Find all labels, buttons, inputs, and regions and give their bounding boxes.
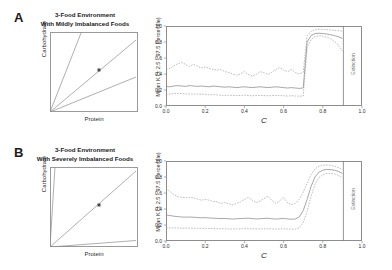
panel-a-lineplot-xlabel: C [166, 116, 362, 125]
xtick-0.6: 0.6 [274, 243, 294, 249]
ytick-0.4: 0.4 [146, 71, 162, 77]
xtick-1.0: 1.0 [352, 243, 372, 249]
rail-high-carbohydrate [50, 32, 81, 112]
xtick-0.4: 0.4 [234, 243, 254, 249]
ytick-0.2: 0.2 [146, 87, 162, 93]
xtick-0.8: 0.8 [313, 243, 333, 249]
intake-target-marker [98, 69, 101, 72]
rail-balanced [50, 40, 136, 112]
rail-balanced [50, 171, 136, 247]
panel-a-nutrient-xlabel: Protein [50, 116, 138, 122]
intake-target-marker [98, 204, 101, 207]
panel-b-nutrient-plot: Carbohydrate Protein [20, 163, 146, 267]
rail-high-protein [50, 77, 136, 112]
panel-b-letter: B [14, 146, 23, 159]
panel-b-nutrient-xlabel: Protein [50, 251, 138, 257]
panel-b-lineplot-xlabel: C [166, 251, 362, 260]
rail-high-protein [50, 241, 136, 248]
series-97-5-percentile [166, 29, 342, 76]
panel-a-nutrient-rails [50, 32, 138, 112]
ytick-1.0: 1.0 [146, 158, 162, 164]
ytick-0.6: 0.6 [146, 190, 162, 196]
xtick-0.2: 0.2 [195, 108, 215, 114]
ytick-0.4: 0.4 [146, 206, 162, 212]
ytick-0.8: 0.8 [146, 174, 162, 180]
series-mean-k [166, 33, 342, 88]
series-97-5-percentile [166, 165, 342, 205]
xtick-0.0: 0.0 [156, 243, 176, 249]
panel-a: A 3-Food Environment With Mildly Imbalan… [0, 0, 392, 135]
panel-a-line-plot: Mean K (± 2.5 - 97.5 Percentile) 0.00.20… [146, 20, 390, 132]
rail-high-carbohydrate [50, 167, 55, 247]
panel-b-extinction-label: Extinction [350, 174, 356, 224]
xtick-0.6: 0.6 [274, 108, 294, 114]
panel-b: B 3-Food Environment With Severely Imbal… [0, 135, 392, 270]
xtick-0.2: 0.2 [195, 243, 215, 249]
panel-a-letter: A [14, 11, 23, 24]
xtick-0.0: 0.0 [156, 108, 176, 114]
panel-b-line-plot: Mean K (± 2.5 - 97.5 Percentile) 0.00.20… [146, 155, 390, 267]
xtick-1.0: 1.0 [352, 108, 372, 114]
series-mean-k [166, 169, 342, 219]
panel-a-nutrient-plot: Carbohydrate Protein [20, 28, 146, 132]
xtick-0.8: 0.8 [313, 108, 333, 114]
ytick-0.6: 0.6 [146, 55, 162, 61]
ytick-1.0: 1.0 [146, 23, 162, 29]
panel-b-lineplot-curves [166, 161, 362, 241]
ytick-0.8: 0.8 [146, 39, 162, 45]
panel-a-lineplot-curves [166, 26, 362, 106]
panel-a-extinction-label: Extinction [350, 39, 356, 89]
xtick-0.4: 0.4 [234, 108, 254, 114]
panel-b-nutrient-rails [50, 167, 138, 247]
ytick-0.2: 0.2 [146, 222, 162, 228]
